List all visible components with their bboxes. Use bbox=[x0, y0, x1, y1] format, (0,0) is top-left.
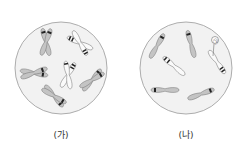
panel-label-na: (나) bbox=[166, 128, 206, 141]
annotation-label: ㉠ bbox=[213, 38, 218, 45]
panel-label-ga: (가) bbox=[41, 128, 81, 141]
cell-na: ㉠ bbox=[140, 22, 232, 114]
cell-ga bbox=[15, 22, 107, 114]
diagram: ㉠ bbox=[0, 0, 246, 153]
